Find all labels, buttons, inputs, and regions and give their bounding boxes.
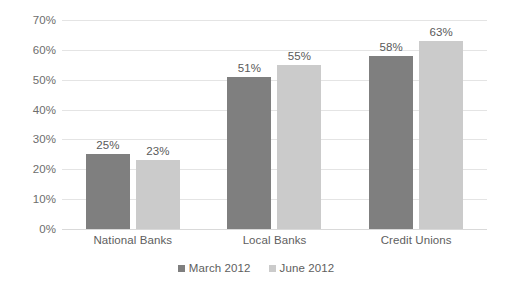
bar-group: 58%63% [345,20,487,229]
bar-value-label: 58% [379,41,402,53]
bar-national-banks-march-2012[interactable] [86,154,130,229]
bar-chart: 0%10%20%30%40%50%60%70% 25%23%51%55%58%6… [0,0,512,286]
bar-national-banks-june-2012[interactable] [136,160,180,229]
legend-swatch-icon [269,265,276,272]
legend-label: June 2012 [280,262,335,274]
y-tick-label: 50% [33,74,56,86]
bar-local-banks-march-2012[interactable] [227,77,271,229]
bar-value-label: 23% [146,145,169,157]
gridline [62,229,487,230]
bar-credit-unions-march-2012[interactable] [369,56,413,229]
chart-legend: March 2012June 2012 [0,262,512,274]
bar-group: 51%55% [204,20,346,229]
bar-value-label: 55% [288,50,311,62]
y-tick-label: 70% [33,14,56,26]
y-tick-label: 10% [33,193,56,205]
x-tick-label: Local Banks [243,234,307,246]
x-axis: National BanksLocal BanksCredit Unions [62,234,487,252]
x-tick-label: National Banks [93,234,172,246]
bar-value-label: 25% [96,139,119,151]
y-tick-label: 30% [33,133,56,145]
y-axis: 0%10%20%30%40%50%60%70% [0,20,56,229]
plot-area: 25%23%51%55%58%63% [62,20,487,229]
y-tick-label: 60% [33,44,56,56]
y-tick-label: 40% [33,104,56,116]
bar-value-label: 51% [238,62,261,74]
legend-label: March 2012 [189,262,251,274]
legend-swatch-icon [178,265,185,272]
bar-group: 25%23% [62,20,204,229]
legend-item-march-2012[interactable]: March 2012 [178,262,251,274]
legend-item-june-2012[interactable]: June 2012 [269,262,335,274]
bar-credit-unions-june-2012[interactable] [419,41,463,229]
bar-local-banks-june-2012[interactable] [277,65,321,229]
y-tick-label: 20% [33,163,56,175]
bar-value-label: 63% [429,26,452,38]
y-tick-label: 0% [39,223,56,235]
x-tick-label: Credit Unions [381,234,452,246]
